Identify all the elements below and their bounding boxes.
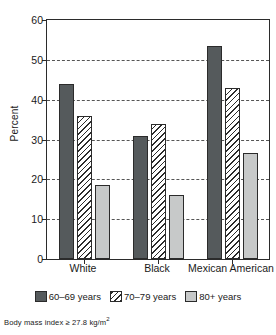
bar — [151, 124, 166, 259]
footnote-text: Body mass index ≥ 27.8 kg/m — [4, 318, 106, 327]
chart-legend: 60–69 years70–79 years80+ years — [0, 291, 276, 302]
bar — [225, 88, 240, 259]
footnote-exponent: 2 — [106, 316, 109, 322]
x-axis-label: White — [70, 262, 97, 274]
legend-swatch-icon — [110, 291, 122, 302]
legend-label: 70–79 years — [124, 291, 176, 302]
y-tick-label: 40 — [31, 94, 43, 106]
legend-swatch-icon — [35, 291, 47, 302]
x-axis-labels: WhiteBlackMexican American — [46, 262, 268, 278]
legend-swatch-icon — [185, 291, 197, 302]
bar-chart-figure: Percent 0102030405060 WhiteBlackMexican … — [0, 0, 276, 335]
x-axis-label: Black — [144, 262, 170, 274]
y-tick-label: 0 — [37, 253, 43, 265]
bar — [133, 136, 148, 259]
bar-group — [47, 20, 121, 259]
y-tick-label: 10 — [31, 213, 43, 225]
legend-label: 60–69 years — [49, 291, 101, 302]
x-axis-label: Mexican American — [188, 262, 274, 274]
y-tick-label: 30 — [31, 134, 43, 146]
chart-footnote: Body mass index ≥ 27.8 kg/m2 — [4, 316, 110, 327]
bar — [243, 153, 258, 259]
legend-label: 80+ years — [199, 291, 241, 302]
bar — [77, 116, 92, 259]
bar-group — [121, 20, 195, 259]
bar-group — [195, 20, 269, 259]
y-tick-label: 50 — [31, 54, 43, 66]
bar — [59, 84, 74, 259]
bar — [95, 185, 110, 259]
y-axis-title: Percent — [9, 74, 20, 174]
bar — [169, 195, 184, 259]
legend-item: 70–79 years — [110, 291, 176, 302]
chart-axes: 0102030405060 — [46, 19, 270, 260]
legend-item: 80+ years — [185, 291, 241, 302]
plot-area: Percent 0102030405060 WhiteBlackMexican … — [0, 0, 276, 285]
bar-groups — [47, 20, 269, 259]
bar — [207, 46, 222, 259]
y-tick-label: 20 — [31, 173, 43, 185]
y-tick-label: 60 — [31, 14, 43, 26]
legend-item: 60–69 years — [35, 291, 101, 302]
